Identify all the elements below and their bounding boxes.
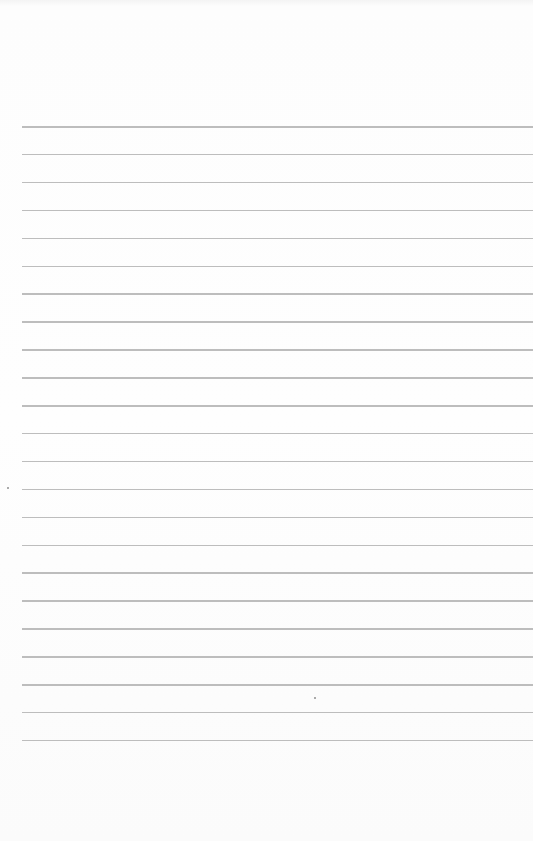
ruled-line xyxy=(22,684,533,686)
ruled-line xyxy=(22,405,533,407)
ruled-line xyxy=(22,182,533,184)
ruled-line xyxy=(22,628,533,630)
ruled-line xyxy=(22,349,533,351)
ruled-line xyxy=(22,377,533,379)
ruled-line xyxy=(22,489,533,491)
ruled-line xyxy=(22,154,533,156)
ruled-line xyxy=(22,517,533,519)
ruled-line xyxy=(22,461,533,463)
ruled-line xyxy=(22,126,533,128)
ruled-line xyxy=(22,572,533,574)
ruled-line xyxy=(22,293,533,295)
ruled-line xyxy=(22,740,533,742)
ruled-line xyxy=(22,600,533,602)
ruled-line xyxy=(22,210,533,212)
ruled-line xyxy=(22,321,533,323)
ruled-line xyxy=(22,656,533,658)
ruled-line xyxy=(22,712,533,714)
paper-speck xyxy=(314,697,316,699)
ruled-line xyxy=(22,433,533,435)
paper-speck xyxy=(7,487,9,489)
ruled-line xyxy=(22,545,533,547)
lined-paper-sheet xyxy=(0,0,533,841)
ruled-line xyxy=(22,238,533,240)
ruled-line xyxy=(22,266,533,268)
